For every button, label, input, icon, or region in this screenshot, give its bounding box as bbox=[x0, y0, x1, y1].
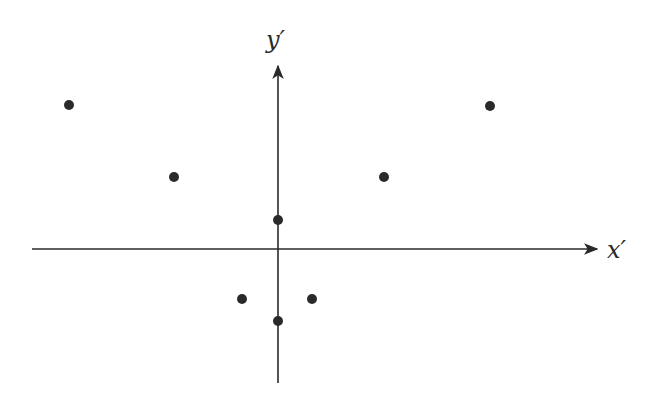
data-point bbox=[485, 101, 495, 111]
data-point bbox=[273, 316, 283, 326]
data-point bbox=[307, 294, 317, 304]
coordinate-diagram bbox=[0, 0, 671, 394]
data-point bbox=[379, 172, 389, 182]
x-axis-label: x′ bbox=[607, 238, 626, 262]
data-point bbox=[273, 215, 283, 225]
data-points bbox=[64, 100, 495, 326]
data-point bbox=[169, 172, 179, 182]
data-point bbox=[64, 100, 74, 110]
y-axis-label: y′ bbox=[266, 28, 285, 52]
data-point bbox=[237, 294, 247, 304]
